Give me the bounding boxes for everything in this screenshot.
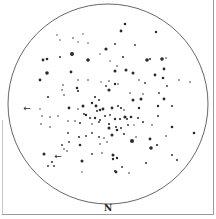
star (171, 105, 173, 107)
star (95, 105, 98, 108)
star (124, 23, 127, 26)
star (56, 34, 57, 35)
star (111, 107, 114, 110)
star (109, 60, 110, 61)
star (121, 166, 123, 168)
star (163, 98, 166, 101)
star (43, 153, 46, 156)
star (68, 141, 70, 143)
star (120, 30, 123, 33)
star (120, 127, 122, 129)
star (82, 33, 83, 34)
star (112, 154, 115, 157)
star (99, 143, 101, 145)
star (156, 144, 158, 146)
star (117, 83, 119, 85)
star (61, 144, 63, 146)
star (77, 79, 79, 81)
star (68, 107, 71, 110)
star (108, 80, 110, 82)
star (132, 72, 135, 75)
star (132, 99, 135, 102)
star (106, 141, 108, 143)
star (107, 88, 110, 91)
star (39, 108, 40, 109)
star (42, 59, 45, 62)
star (108, 123, 110, 125)
star (85, 114, 87, 116)
star (45, 71, 49, 75)
star (123, 133, 125, 135)
star (125, 69, 128, 72)
star (99, 109, 102, 112)
star (158, 92, 160, 94)
star (193, 132, 196, 135)
star (189, 81, 191, 83)
field-of-view-circle (8, 4, 208, 204)
star (119, 118, 121, 120)
star (171, 154, 173, 156)
star (140, 98, 143, 101)
star (145, 58, 149, 62)
star (51, 161, 53, 163)
star (165, 135, 167, 137)
star (133, 124, 134, 125)
star (99, 53, 100, 54)
star (105, 85, 107, 87)
star (130, 139, 134, 143)
star (108, 127, 111, 130)
star (151, 124, 153, 126)
star (114, 70, 117, 73)
star (122, 56, 124, 58)
star (91, 123, 93, 125)
star (63, 148, 65, 150)
star (104, 115, 106, 117)
star-field: ←← (0, 0, 216, 219)
star (79, 122, 81, 124)
star (142, 93, 144, 95)
star (99, 119, 101, 121)
arrow-west-icon: ← (23, 103, 31, 113)
star (116, 65, 118, 67)
markers-group: ←← (23, 103, 62, 161)
star (61, 89, 63, 91)
star (138, 107, 140, 109)
star (47, 165, 49, 167)
star (67, 120, 69, 122)
star (123, 109, 125, 111)
star (114, 43, 116, 45)
star (157, 105, 159, 107)
star (91, 153, 93, 155)
star (40, 123, 42, 125)
star (91, 132, 93, 134)
star (144, 82, 146, 84)
star (57, 115, 59, 117)
star (126, 118, 128, 120)
star (103, 137, 105, 139)
star (49, 116, 51, 118)
star (98, 99, 100, 101)
star (117, 105, 119, 107)
star (47, 96, 49, 98)
stars-group (39, 23, 196, 174)
star (70, 71, 73, 74)
star (89, 117, 91, 119)
star (127, 124, 129, 126)
star (53, 165, 55, 167)
star (101, 152, 103, 154)
star (62, 84, 64, 86)
star (76, 87, 79, 90)
star (94, 96, 96, 98)
star (87, 79, 89, 81)
star (72, 37, 74, 39)
star (41, 115, 43, 117)
star (86, 58, 90, 62)
star (111, 134, 114, 137)
star (77, 41, 78, 42)
star (39, 79, 42, 82)
star (129, 92, 131, 94)
star (112, 158, 114, 160)
star (128, 172, 130, 174)
star (100, 81, 101, 82)
star (109, 114, 111, 116)
